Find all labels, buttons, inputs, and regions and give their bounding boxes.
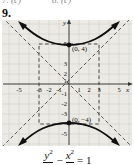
- x-tick-2: 2: [87, 86, 90, 93]
- y-tick-2: 2: [64, 70, 67, 77]
- cut-off-answer-right: 8. (c): [52, 0, 71, 5]
- equation-caption: y2 16 − x2 9 = 1: [0, 148, 134, 165]
- y-tick--2: -2: [62, 100, 67, 107]
- hyperbola-figure: y x -5 -3 -2 -1 1 2 3 5 5 3 2 1 -1 -2 -3…: [0, 19, 134, 147]
- point-label-upper-vertex: (0, 4): [72, 45, 88, 53]
- fraction-x-squared-over-9: x2 9: [66, 149, 74, 165]
- y-tick--3: -3: [62, 110, 67, 117]
- y-tick-3: 3: [64, 60, 67, 67]
- vertex-point-lower: [67, 121, 72, 126]
- point-label-lower-vertex: (0, −4): [72, 116, 92, 124]
- x-tick--2: -2: [46, 86, 51, 93]
- denominator-16: 16: [43, 164, 53, 165]
- numerator-y-squared: y2: [44, 149, 52, 161]
- y-tick-1: 1: [64, 77, 67, 84]
- hyperbola-plot: y x -5 -3 -2 -1 1 2 3 5 5 3 2 1 -1 -2 -3…: [0, 19, 134, 147]
- equation-minus-operator: −: [56, 149, 62, 165]
- vertex-point-upper: [67, 43, 72, 48]
- x-tick-3: 3: [97, 86, 100, 93]
- y-tick--1: -1: [62, 90, 67, 97]
- x-tick-1: 1: [77, 86, 80, 93]
- numerator-x-squared: x2: [66, 149, 74, 161]
- cut-off-answer-line: 7. (c) 8. (c): [0, 0, 134, 7]
- fraction-y-squared-over-16: y2 16: [43, 149, 53, 165]
- y-tick--5: -5: [62, 130, 67, 137]
- cut-off-answer-left: 7. (c): [2, 0, 21, 5]
- x-tick-5: 5: [117, 86, 120, 93]
- y-tick-5: 5: [64, 40, 67, 47]
- x-tick--3: -3: [36, 86, 41, 93]
- x-tick--5: -5: [16, 86, 21, 93]
- equation-equals-one: = 1: [77, 149, 91, 165]
- denominator-9: 9: [67, 164, 72, 165]
